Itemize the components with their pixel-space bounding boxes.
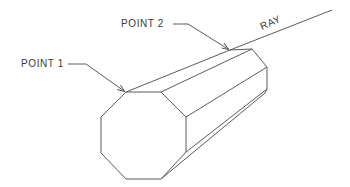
point2-label: POINT 2 [121,18,164,29]
prism-edge-upper-right [161,49,252,92]
ray-label: RAY [258,13,282,32]
diagram-canvas: RAY POINT 1 POINT 2 [0,0,350,187]
prism-edge-bottom [161,93,265,179]
prism-front-face [101,92,186,179]
point1-label: POINT 1 [21,58,64,69]
point2-leader-arrow [173,24,228,49]
prism-edge-lower-right [186,89,267,152]
point1-leader-arrow [68,64,124,91]
ray-line [230,10,332,50]
prism-edge-top [126,50,230,92]
